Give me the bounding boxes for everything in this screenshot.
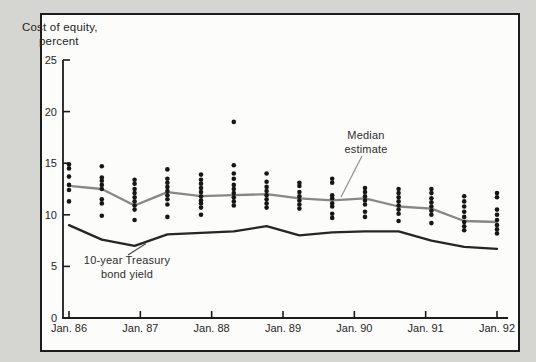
estimate-dot: [232, 176, 237, 181]
treasury-yield-label: 10-year Treasury bond yield: [66, 254, 188, 281]
estimate-dot: [297, 202, 302, 207]
estimate-dot: [429, 196, 434, 201]
estimate-dot: [462, 220, 467, 225]
estimate-dot: [429, 187, 434, 192]
estimate-dot: [199, 205, 204, 210]
estimate-dot: [232, 195, 237, 200]
estimate-dot: [330, 204, 335, 209]
estimate-dot: [165, 189, 170, 194]
estimate-dot: [462, 209, 467, 214]
estimate-dot: [132, 182, 137, 187]
estimate-dot: [396, 219, 401, 224]
estimate-dot: [429, 204, 434, 209]
chart-title-line2: percent: [22, 34, 98, 48]
chart-canvas: 0510152025Jan. 86Jan. 87Jan. 88Jan. 89Ja…: [0, 0, 536, 362]
estimate-dot: [100, 164, 105, 169]
estimate-dot: [132, 203, 137, 208]
estimate-dot: [165, 215, 170, 220]
estimate-dot: [100, 214, 105, 219]
estimate-dot: [429, 208, 434, 213]
estimate-dot: [67, 166, 72, 171]
estimate-dot: [363, 198, 368, 203]
estimate-dot: [199, 172, 204, 177]
estimate-dot: [363, 209, 368, 214]
estimate-dot: [495, 231, 500, 236]
x-tick-label: Jan. 87: [122, 322, 158, 334]
estimate-dot: [363, 202, 368, 207]
estimate-dot: [264, 180, 269, 185]
estimate-dot: [67, 188, 72, 193]
estimate-dot: [132, 195, 137, 200]
estimate-dot: [100, 183, 105, 188]
estimate-dot: [396, 191, 401, 196]
estimate-dot: [363, 190, 368, 195]
y-tick-label: 5: [51, 260, 57, 272]
estimate-dot: [232, 187, 237, 192]
estimate-dot: [330, 181, 335, 186]
treasury-yield-label-line2: bond yield: [66, 268, 188, 282]
y-tick-label: 20: [45, 106, 57, 118]
estimate-dot: [132, 177, 137, 182]
estimate-dot: [264, 171, 269, 176]
estimate-dot: [330, 176, 335, 181]
estimate-dot: [396, 212, 401, 217]
estimate-dot: [264, 201, 269, 206]
estimate-dot: [132, 207, 137, 212]
estimate-dot: [297, 206, 302, 211]
estimate-dot: [264, 205, 269, 210]
estimate-dot: [363, 186, 368, 191]
estimate-dot: [232, 203, 237, 208]
median-estimate-label: Median estimate: [330, 129, 402, 156]
estimate-dot: [495, 191, 500, 196]
estimate-dot: [495, 227, 500, 232]
estimate-dot: [330, 212, 335, 217]
estimate-dot: [67, 174, 72, 179]
estimate-dot: [67, 183, 72, 188]
estimate-dot: [232, 183, 237, 188]
estimate-dot: [297, 190, 302, 195]
estimate-dot: [363, 215, 368, 220]
x-tick-label: Jan. 90: [336, 322, 372, 334]
estimate-dot: [495, 195, 500, 200]
estimate-dot: [165, 193, 170, 198]
estimate-dot: [199, 182, 204, 187]
estimate-dot: [264, 185, 269, 190]
estimate-dot: [462, 199, 467, 204]
median-estimate-label-line2: estimate: [330, 143, 402, 157]
x-tick-label: Jan. 86: [51, 322, 87, 334]
x-tick-label: Jan. 91: [408, 322, 444, 334]
estimate-dot: [100, 178, 105, 183]
estimate-dot: [429, 213, 434, 218]
median-estimate-label-line1: Median: [330, 129, 402, 143]
estimate-dot: [199, 186, 204, 191]
estimate-dot: [165, 202, 170, 207]
estimate-dot: [165, 176, 170, 181]
estimate-dot: [67, 162, 72, 167]
estimate-dot: [264, 197, 269, 202]
estimate-dot: [67, 199, 72, 204]
estimate-dot: [232, 171, 237, 176]
estimate-dot: [232, 120, 237, 125]
estimate-dot: [264, 189, 269, 194]
chart-title: Cost of equity, percent: [22, 20, 98, 48]
estimate-dot: [199, 213, 204, 218]
estimate-dot: [199, 190, 204, 195]
chart-title-line1: Cost of equity,: [22, 20, 98, 34]
estimate-dot: [396, 199, 401, 204]
estimate-dot: [495, 207, 500, 212]
estimate-dot: [297, 184, 302, 189]
treasury-yield-label-line1: 10-year Treasury: [66, 254, 188, 268]
estimate-dot: [495, 213, 500, 218]
estimate-dot: [462, 204, 467, 209]
estimate-dot: [396, 187, 401, 192]
estimate-dot: [429, 200, 434, 205]
estimate-dot: [462, 194, 467, 199]
estimate-dot: [264, 193, 269, 198]
estimate-dot: [429, 191, 434, 196]
treasury-yield-line: [69, 225, 497, 249]
estimate-dot: [100, 201, 105, 206]
x-tick-label: Jan. 89: [265, 322, 301, 334]
estimate-dot: [132, 199, 137, 204]
y-tick-label: 25: [45, 54, 57, 66]
estimate-dot: [132, 191, 137, 196]
